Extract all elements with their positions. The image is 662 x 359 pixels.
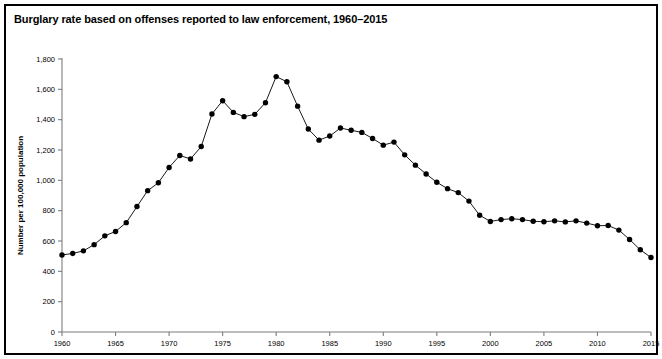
data-point-marker: 2013: 610 [627,237,632,242]
data-point-marker: 1972: 1141 [188,156,193,161]
data-point-marker: 1970: 1085 [166,165,171,170]
data-point-marker: 1969: 984 [156,180,161,185]
y-tick-label: 1,000 [36,176,55,185]
data-point-marker: 1961: 518 [70,251,75,256]
data-point-marker: 1992: 1168 [402,152,407,157]
y-tick-label: 200 [42,297,55,306]
data-point-marker: 1998: 863 [466,198,471,203]
data-point-marker: 1993: 1100 [413,162,418,167]
burglary-rate-series: 1960: 5081961: 5181962: 5351963: 5761964… [59,74,653,260]
data-point-marker: 1989: 1276 [370,136,375,141]
x-tick-label: 1970 [161,339,178,348]
y-tick-label: 800 [42,206,55,215]
data-point-marker: 1985: 1292 [327,133,332,138]
y-axis: 02004006008001,0001,2001,4001,6001,800 [36,55,62,337]
data-point-marker: 2003: 741 [520,217,525,222]
data-point-marker: 1966: 721 [124,220,129,225]
data-point-marker: 1991: 1252 [391,139,396,144]
line-chart-plot: 02004006008001,0001,2001,4001,6001,800 1… [0,0,662,359]
x-tick-label: 2005 [536,339,553,348]
data-point-marker: 1977: 1420 [241,114,246,119]
y-tick-label: 1,800 [36,55,55,64]
data-point-marker: 1976: 1448 [231,110,236,115]
y-tick-label: 1,600 [36,85,55,94]
data-point-marker: 2011: 702 [605,223,610,228]
data-point-marker: 1965: 663 [113,229,118,234]
y-tick-label: 600 [42,237,55,246]
series-line-path [62,77,651,258]
x-tick-label: 1985 [321,339,338,348]
y-axis-title-label: Number per 100,000 population [16,136,25,255]
data-point-marker: 1971: 1164 [177,153,182,158]
data-point-marker: 1984: 1265 [316,137,321,142]
data-point-marker: 2002: 747 [509,216,514,221]
data-point-marker: 1983: 1338 [306,126,311,131]
data-point-marker: 1981: 1650 [284,79,289,84]
x-tick-label: 1990 [375,339,392,348]
y-tick-label: 1,400 [36,115,55,124]
data-point-marker: 1995: 987 [434,180,439,185]
data-point-marker: 2000: 729 [488,219,493,224]
data-point-marker: 1979: 1512 [263,100,268,105]
data-point-marker: 2006: 733 [552,218,557,223]
data-point-marker: 1990: 1232 [381,142,386,147]
x-tick-label: 1975 [214,339,231,348]
data-point-marker: 2004: 730 [531,219,536,224]
data-point-marker: 1974: 1437 [209,111,214,116]
x-axis: 1960196519701975198019851990199520002005… [54,332,660,348]
figure-container: Burglary rate based on offenses reported… [0,0,662,359]
data-point-marker: 2010: 701 [595,223,600,228]
y-axis-title: Number per 100,000 population [16,136,25,255]
x-tick-label: 1995 [428,339,445,348]
data-point-marker: 2015: 491 [648,255,653,260]
data-point-marker: 1968: 932 [145,188,150,193]
data-point-marker: 2012: 672 [616,227,621,232]
data-point-marker: 1967: 827 [134,204,139,209]
data-point-marker: 1964: 634 [102,233,107,238]
x-tick-label: 1960 [54,339,71,348]
x-tick-label: 1980 [268,339,285,348]
x-tick-label: 2015 [643,339,660,348]
data-point-marker: 1963: 576 [91,242,96,247]
data-point-marker: 1960: 508 [59,252,64,257]
data-point-marker: 2008: 733 [573,218,578,223]
data-point-marker: 1982: 1489 [295,103,300,108]
data-point-marker: 1994: 1042 [423,171,428,176]
data-point-marker: 2009: 718 [584,220,589,225]
data-point-marker: 1980: 1684 [273,74,278,79]
data-point-marker: 2001: 741 [498,217,503,222]
data-point-marker: 1997: 919 [456,190,461,195]
x-tick-label: 1965 [107,339,124,348]
data-point-marker: 2007: 726 [563,219,568,224]
data-point-marker: 1987: 1330 [348,128,353,133]
data-point-marker: 1996: 945 [445,186,450,191]
data-point-marker: 1978: 1435 [252,112,257,117]
data-point-marker: 1962: 535 [81,248,86,253]
data-point-marker: 1973: 1223 [199,144,204,149]
data-point-marker: 1986: 1345 [338,125,343,130]
y-tick-label: 400 [42,267,55,276]
y-tick-label: 0 [51,328,55,337]
data-point-marker: 1975: 1525 [220,98,225,103]
data-point-marker: 1999: 770 [477,213,482,218]
data-point-marker: 1988: 1316 [359,130,364,135]
data-point-marker: 2005: 727 [541,219,546,224]
x-tick-label: 2010 [589,339,606,348]
x-tick-label: 2000 [482,339,499,348]
y-tick-label: 1,200 [36,146,55,155]
data-point-marker: 2014: 542 [638,247,643,252]
